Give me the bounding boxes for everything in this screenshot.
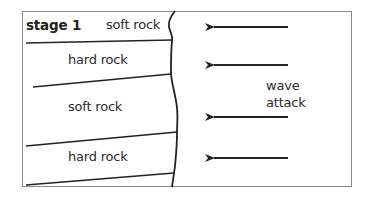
wave-attack-label: wave attack [266,77,306,111]
stage-label: stage 1 [26,17,81,33]
wave-label-line2: attack [266,94,306,111]
wave-label-line1: wave [266,77,306,94]
layer-label-soft-rock-2: soft rock [68,99,122,114]
layer-label-soft-rock-1: soft rock [106,17,160,32]
layer-label-hard-rock-2: hard rock [68,149,128,164]
layer-label-hard-rock-1: hard rock [68,52,128,67]
